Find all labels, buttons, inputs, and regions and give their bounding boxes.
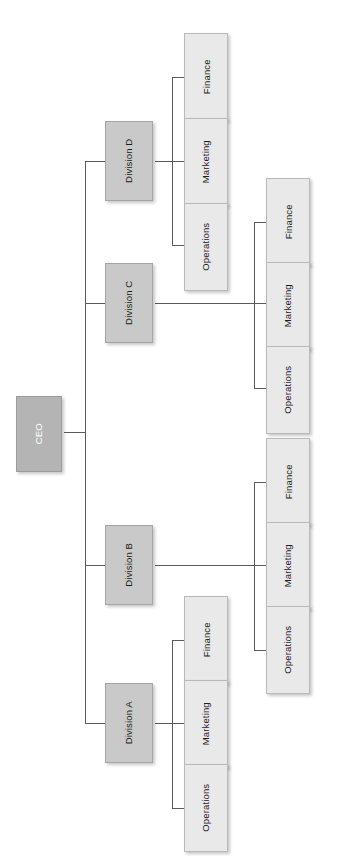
connector-division-d-to-marketing [172, 161, 184, 162]
connector-division-c-to-marketing [254, 303, 266, 304]
node-division-a-operations-label: Operations [201, 784, 211, 832]
node-division-c-label: Division C [124, 281, 134, 325]
node-division-c-marketing[interactable]: Marketing [266, 262, 310, 350]
node-division-b-marketing[interactable]: Marketing [266, 522, 310, 610]
connector-division-d-to-operations [172, 245, 184, 246]
connector-division-c-to-finance [254, 222, 266, 223]
node-division-c-operations[interactable]: Operations [266, 346, 310, 434]
connector-trunk-to-division-b [85, 565, 105, 566]
node-division-c-finance-label: Finance [283, 205, 293, 240]
node-division-d[interactable]: Division D [105, 121, 153, 201]
node-division-d-marketing[interactable]: Marketing [184, 118, 228, 206]
node-division-b-operations[interactable]: Operations [266, 606, 310, 694]
node-division-a-finance-label: Finance [201, 623, 211, 658]
node-division-a-marketing-label: Marketing [201, 702, 211, 745]
node-ceo-label: CEO [34, 423, 44, 444]
node-division-b-operations-label: Operations [283, 626, 293, 674]
node-division-d-finance[interactable]: Finance [184, 33, 228, 121]
node-division-a-marketing[interactable]: Marketing [184, 680, 228, 768]
connector-trunk [85, 161, 86, 723]
org-chart-canvas: CEO Division D Finance Marketing Operati… [0, 0, 343, 856]
connector-division-b-stem [155, 565, 255, 566]
connector-division-a-bus [172, 640, 173, 808]
node-division-a-operations[interactable]: Operations [184, 764, 228, 852]
node-division-a-label: Division A [124, 701, 134, 744]
connector-division-d-stem [155, 161, 173, 162]
node-division-c-finance[interactable]: Finance [266, 178, 310, 266]
connector-trunk-to-division-c [85, 303, 105, 304]
connector-trunk-to-division-d [85, 161, 105, 162]
connector-division-a-to-operations [172, 808, 184, 809]
node-division-c-marketing-label: Marketing [283, 284, 293, 327]
connector-division-b-bus [254, 482, 255, 650]
node-division-d-operations[interactable]: Operations [184, 203, 228, 291]
connector-division-b-to-operations [254, 650, 266, 651]
connector-division-b-to-marketing [254, 565, 266, 566]
connector-ceo-to-trunk [64, 432, 86, 433]
connector-trunk-to-division-a [85, 723, 105, 724]
node-division-a-finance[interactable]: Finance [184, 596, 228, 684]
node-division-b-marketing-label: Marketing [283, 544, 293, 587]
connector-division-c-stem [155, 303, 255, 304]
node-division-d-label: Division D [124, 139, 134, 183]
node-division-b-finance[interactable]: Finance [266, 438, 310, 526]
node-division-c-operations-label: Operations [283, 366, 293, 414]
connector-division-a-to-marketing [172, 723, 184, 724]
node-division-b-finance-label: Finance [283, 465, 293, 500]
node-division-d-finance-label: Finance [201, 60, 211, 95]
node-division-c[interactable]: Division C [105, 263, 153, 343]
node-division-a[interactable]: Division A [105, 683, 153, 763]
node-division-d-marketing-label: Marketing [201, 140, 211, 183]
connector-division-a-stem [155, 723, 173, 724]
connector-division-c-bus [254, 222, 255, 388]
node-division-b-label: Division B [124, 543, 134, 587]
node-division-d-operations-label: Operations [201, 223, 211, 271]
connector-division-c-to-operations [254, 388, 266, 389]
node-division-b[interactable]: Division B [105, 525, 153, 605]
connector-division-b-to-finance [254, 482, 266, 483]
node-ceo[interactable]: CEO [16, 396, 62, 472]
connector-division-a-to-finance [172, 640, 184, 641]
connector-division-d-to-finance [172, 77, 184, 78]
